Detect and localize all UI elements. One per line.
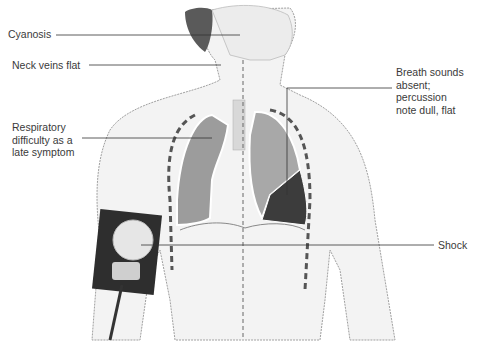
bp-bulb bbox=[112, 262, 140, 280]
torso-illustration bbox=[0, 0, 477, 345]
bp-gauge bbox=[113, 220, 153, 260]
label-respiratory: Respiratory difficulty as a late symptom bbox=[12, 121, 74, 159]
label-breath-sounds: Breath sounds absent; percussion note du… bbox=[396, 66, 464, 116]
diagram-canvas: Cyanosis Neck veins flat Respiratory dif… bbox=[0, 0, 477, 345]
label-shock: Shock bbox=[438, 239, 467, 252]
label-neck-veins: Neck veins flat bbox=[12, 59, 80, 72]
label-cyanosis: Cyanosis bbox=[8, 28, 51, 41]
